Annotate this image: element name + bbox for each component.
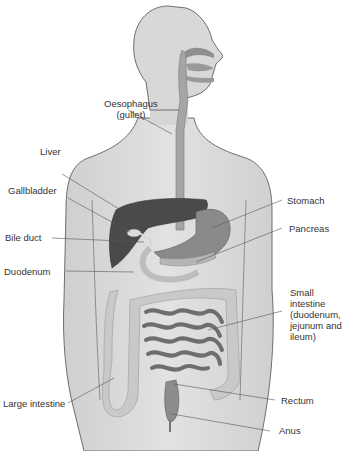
rectum-shape [165, 380, 179, 422]
label-gallbladder: Gallbladder [8, 185, 57, 196]
label-oesophagus: Oesophagus (gullet) [104, 98, 158, 120]
label-small-intestine: Small intestine (duodenum, jejunum and i… [290, 287, 342, 342]
label-liver: Liver [40, 146, 61, 157]
label-bile-duct: Bile duct [5, 232, 41, 243]
label-stomach: Stomach [287, 195, 325, 206]
label-pancreas: Pancreas [289, 223, 329, 234]
label-rectum: Rectum [281, 395, 314, 406]
digestive-system-diagram: Oesophagus (gullet) Liver Gallbladder Bi… [0, 0, 346, 451]
label-large-intestine: Large intestine [3, 398, 65, 409]
head-outline [134, 6, 223, 110]
label-duodenum: Duodenum [4, 266, 50, 277]
label-anus: Anus [279, 425, 301, 436]
